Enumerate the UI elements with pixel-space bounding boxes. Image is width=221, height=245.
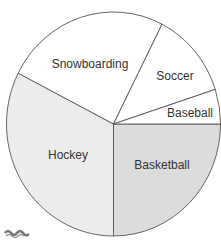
label-basketball: Basketball (134, 158, 189, 172)
slice-basketball (114, 124, 221, 236)
label-soccer: Soccer (156, 69, 193, 83)
pie-slices (6, 12, 220, 236)
scribble-mark (5, 231, 29, 238)
label-snowboarding: Snowboarding (52, 57, 129, 71)
label-baseball: Baseball (167, 106, 213, 120)
label-hockey: Hockey (48, 148, 88, 162)
pie-chart (0, 0, 221, 245)
